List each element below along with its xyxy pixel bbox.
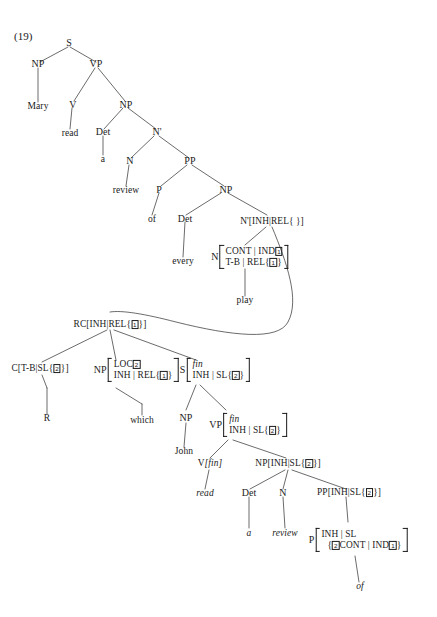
node-p-of-avm: P INH | SL {2CONT | IND1}: [309, 528, 408, 552]
node-v-matrix: V: [69, 100, 76, 111]
terminal-review-rc: review: [272, 529, 298, 539]
terminal-play: play: [237, 296, 254, 306]
node-n-quantifier-cat: N: [211, 252, 218, 263]
tag-index-1: 1: [270, 258, 278, 267]
tag-index-1: 1: [389, 541, 397, 550]
node-n-review-rc: N: [279, 488, 286, 499]
node-n-review: N: [126, 156, 133, 167]
tree-edges: [0, 0, 437, 617]
node-s-finite-avm: S fin INH | SL{2}: [180, 358, 250, 382]
avm-row-local-index: {2CONT | IND1}: [321, 540, 401, 551]
example-number: (19): [14, 30, 32, 42]
node-np-john: NP: [180, 413, 193, 424]
terminal-a-matrix: a: [101, 155, 105, 165]
node-np-object: NP: [120, 100, 133, 111]
node-det-every: Det: [178, 214, 193, 225]
tag-index-2: 2: [269, 426, 277, 435]
avm-row-fin: fin: [229, 414, 281, 425]
avm-bracket-right: [246, 358, 251, 382]
terminal-mary: Mary: [28, 102, 49, 112]
avm-row-fin: fin: [192, 359, 244, 370]
avm-row-inh-sl: INH | SL{2}: [192, 370, 244, 381]
tag-index-2: 2: [53, 364, 61, 373]
node-np-which-cat: NP: [94, 365, 107, 376]
tag-index-1: 1: [131, 320, 139, 329]
node-nbar-rel-cat: N': [240, 216, 249, 226]
node-p-of-cat: P: [309, 535, 315, 546]
node-pp-of: PP: [184, 156, 195, 167]
avm-bracket-right: [282, 413, 287, 437]
avm-bracket-right: [174, 358, 179, 382]
node-np-which-avm: NP LOC2 INH | REL{1}: [94, 358, 179, 382]
terminal-read-rc: read: [196, 489, 213, 499]
avm-bracket-right: [403, 528, 408, 552]
node-np-slash-cat: NP: [255, 458, 267, 468]
node-pp-slash-cat: PP: [317, 487, 328, 497]
node-c-slash: C[T-B|SL{2}]: [11, 364, 68, 374]
avm-row-inh-rel: INH | REL{1}: [114, 370, 173, 381]
avm-row-tb-rel: T-B | REL{1}: [226, 257, 283, 268]
node-det-a-rc: Det: [242, 488, 257, 499]
tag-index-1: 1: [160, 371, 168, 380]
node-det-a: Det: [96, 127, 111, 138]
terminal-every: every: [172, 257, 194, 267]
node-s-root: S: [66, 38, 72, 49]
avm-row-loc: LOC2: [114, 359, 173, 370]
tag-index-2: 2: [366, 488, 374, 497]
terminal-of-matrix: of: [148, 215, 156, 225]
terminal-read-matrix: read: [62, 129, 79, 139]
terminal-a-rc: a: [247, 529, 252, 539]
terminal-of-rc: of: [356, 582, 364, 592]
node-rc-cat: RC: [74, 319, 87, 329]
node-np-slash: NP[INH|SL{2}]: [255, 459, 320, 469]
avm-row-cont-ind: CONT | IND1: [226, 246, 283, 257]
node-vp-finite-avm: VP fin INH | SL{2}: [209, 413, 287, 437]
node-vp-matrix: VP: [90, 59, 103, 70]
node-rc: RC[INH|REL{1}]: [74, 320, 147, 330]
node-v-finite: V[fin]: [198, 459, 223, 469]
node-np-every: NP: [220, 185, 233, 196]
terminal-r-gap: R: [44, 414, 50, 424]
node-p-of: P: [156, 185, 162, 196]
node-s-finite-cat: S: [180, 365, 186, 376]
node-np-subject: NP: [32, 59, 45, 70]
tag-index-2: 2: [133, 360, 141, 369]
tag-index-2: 2: [232, 371, 240, 380]
terminal-review-matrix: review: [113, 186, 139, 196]
tag-index-2: 2: [305, 459, 313, 468]
node-v-finite-cat: V: [198, 458, 205, 468]
avm-row-inh-sl: INH | SL: [321, 529, 401, 540]
node-nbar-review: N': [152, 127, 161, 138]
node-pp-slash: PP[INH|SL{2}]: [317, 488, 381, 498]
node-nbar-rel-feature: [INH|REL{ }]: [249, 216, 304, 226]
node-nbar-rel: N'[INH|REL{ }]: [240, 217, 304, 227]
node-n-quantifier-avm: N CONT | IND1 T-B | REL{1}: [211, 245, 288, 269]
terminal-john: John: [175, 447, 193, 457]
avm-row-inh-sl: INH | SL{2}: [229, 425, 281, 436]
terminal-which: which: [130, 416, 154, 426]
tag-index-2: 2: [332, 541, 340, 550]
node-vp-finite-cat: VP: [209, 420, 222, 431]
avm-bracket-right: [284, 245, 289, 269]
tag-index-1: 1: [275, 247, 283, 256]
